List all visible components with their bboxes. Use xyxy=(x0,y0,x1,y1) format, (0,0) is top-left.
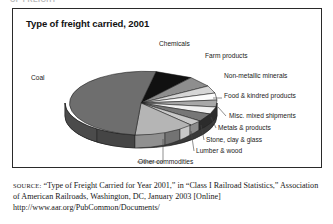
pie-label-other-commodities: Other commodities xyxy=(138,159,193,166)
pie-label-metals-products: Metals & products xyxy=(218,125,271,132)
leader-misc xyxy=(218,107,226,116)
cropped-page-header-text: OF FREIGHT xyxy=(10,0,56,3)
pie-label-chemicals: Chemicals xyxy=(159,41,190,48)
pie-chart-svg xyxy=(13,35,323,169)
source-note: SOURCE: “Type of Freight Carried for Yea… xyxy=(13,180,325,214)
source-keyword: SOURCE: xyxy=(13,182,41,189)
pie-label-coal: Coal xyxy=(31,75,45,82)
pie-label-food-kindred-products: Food & kindred products xyxy=(224,93,296,100)
pie-label-non-metallic-minerals: Non-metallic minerals xyxy=(224,73,287,80)
figure-container: Type of freight carried, 2001 xyxy=(12,8,322,168)
pie-label-farm-products: Farm products xyxy=(205,53,248,60)
pie-chart: Coal Chemicals Farm products Non-metalli… xyxy=(13,35,323,169)
pie-label-lumber-wood: Lumber & wood xyxy=(196,148,242,155)
source-text: “Type of Freight Carried for Year 2001,”… xyxy=(13,181,318,212)
pie-label-stone-clay-glass: Stone, clay & glass xyxy=(206,137,262,144)
pie-label-misc-mixed-shipments: Misc. mixed shipments xyxy=(229,113,296,120)
page-title: Type of freight carried, 2001 xyxy=(26,18,149,29)
